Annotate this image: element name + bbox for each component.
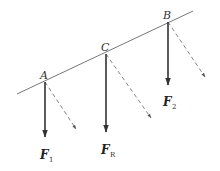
point-label-c: C bbox=[101, 41, 110, 54]
force-labels: F1FRF2 bbox=[39, 95, 177, 164]
force-label-f1: F1 bbox=[39, 148, 54, 164]
point-labels: ACB bbox=[39, 9, 171, 82]
dashed-arrow-a bbox=[45, 82, 76, 129]
force-label-fr: FR bbox=[100, 143, 116, 159]
point-label-b: B bbox=[162, 9, 171, 22]
force-diagram: ACB F1FRF2 bbox=[0, 0, 220, 171]
dashed-arrow-c bbox=[106, 54, 151, 118]
point-label-a: A bbox=[39, 69, 48, 82]
dashed-arrow-b bbox=[168, 22, 205, 77]
force-arrows bbox=[45, 22, 168, 137]
dashed-force-arrows bbox=[45, 22, 205, 129]
force-label-f2: F2 bbox=[162, 95, 177, 111]
